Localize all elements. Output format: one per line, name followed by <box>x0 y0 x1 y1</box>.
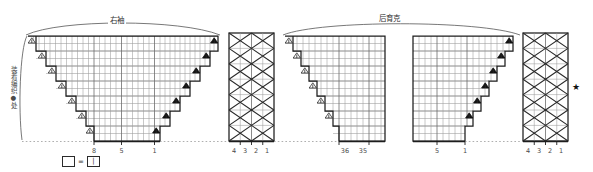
side-note-vertical-text: 装着编织●处 <box>9 66 16 109</box>
tick-label-yokeL-35: 35 <box>359 147 367 155</box>
panel-back-yoke-right <box>413 36 513 141</box>
panel-right-sleeve <box>20 23 220 141</box>
decrease-filled-triangle-icon <box>474 98 481 103</box>
decrease-filled-triangle-icon <box>173 98 180 103</box>
panel-back-yoke-left <box>283 24 520 141</box>
decrease-open-triangle-icon <box>86 128 93 133</box>
tick-label-cableR-2: 2 <box>548 147 552 155</box>
decrease-open-triangle-icon <box>28 38 35 43</box>
decrease-open-triangle-icon <box>38 53 45 58</box>
tick-label-sleeve-1: 1 <box>152 147 156 155</box>
decrease-filled-triangle-icon <box>193 68 200 73</box>
decrease-open-triangle-icon <box>325 113 332 118</box>
panel-cable-right <box>523 33 568 141</box>
tick-label-sleeve-5: 5 <box>119 147 123 155</box>
legend: = | <box>62 156 100 167</box>
star-marker-icon: ★ <box>572 83 580 92</box>
tick-label-cableL-1: 1 <box>265 147 269 155</box>
tick-label-yokeR-5: 5 <box>435 147 439 155</box>
decrease-open-triangle-icon <box>301 68 308 73</box>
tick-label-cableL-4: 4 <box>232 147 236 155</box>
decrease-filled-triangle-icon <box>506 38 513 43</box>
tick-label-yokeL-36: 36 <box>341 147 349 155</box>
legend-equals-sign: = <box>78 158 84 166</box>
decrease-filled-triangle-icon <box>203 53 210 58</box>
decrease-filled-triangle-icon <box>482 83 489 88</box>
side-note-leader <box>20 36 27 140</box>
decrease-open-triangle-icon <box>285 38 292 43</box>
decrease-open-triangle-icon <box>78 113 85 118</box>
yoke-top-bracket <box>283 24 520 35</box>
decrease-filled-triangle-icon <box>211 38 218 43</box>
decrease-open-triangle-icon <box>58 83 65 88</box>
tick-label-cableR-1: 1 <box>559 147 563 155</box>
legend-empty-box-icon <box>62 156 75 167</box>
decrease-filled-triangle-icon <box>153 128 160 133</box>
decrease-open-triangle-icon <box>293 53 300 58</box>
label-back-yoke: 后育克 <box>377 12 402 23</box>
decrease-filled-triangle-icon <box>498 53 505 58</box>
decrease-open-triangle-icon <box>309 83 316 88</box>
legend-knit-box-icon: | <box>87 156 100 167</box>
panel-cable-left <box>229 33 274 141</box>
label-right-sleeve: 右袖 <box>108 14 126 25</box>
decrease-filled-triangle-icon <box>490 68 497 73</box>
tick-marks <box>94 142 557 146</box>
tick-label-sleeve-8: 8 <box>92 147 96 155</box>
knitting-chart-svg: 8 5 1 4 3 2 1 36 35 5 1 4 3 2 1 <box>0 0 593 172</box>
tick-label-yokeR-1: 1 <box>463 147 467 155</box>
tick-label-cableL-3: 3 <box>243 147 247 155</box>
decrease-filled-triangle-icon <box>183 83 190 88</box>
yoke-right-decrease-group <box>466 38 513 118</box>
decrease-open-triangle-icon <box>48 68 55 73</box>
decrease-open-triangle-icon <box>68 98 75 103</box>
tick-label-cableL-2: 2 <box>254 147 258 155</box>
tick-label-cableR-3: 3 <box>537 147 541 155</box>
chart-canvas: 8 5 1 4 3 2 1 36 35 5 1 4 3 2 1 右袖 后育克 装… <box>0 0 593 172</box>
tick-label-cableR-4: 4 <box>526 147 530 155</box>
baseline-axis: 8 5 1 4 3 2 1 36 35 5 1 4 3 2 1 <box>22 142 568 156</box>
decrease-filled-triangle-icon <box>163 113 170 118</box>
decrease-open-triangle-icon <box>317 98 324 103</box>
